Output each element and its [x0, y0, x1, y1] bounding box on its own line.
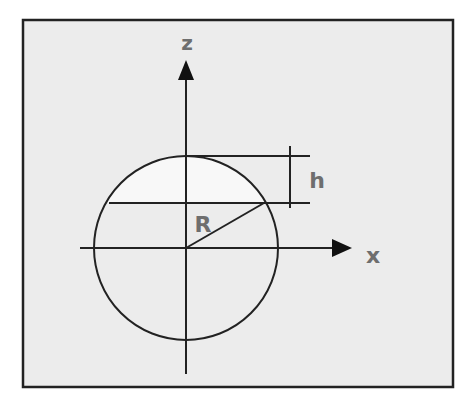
z-axis-label: z — [181, 33, 193, 53]
radius-label: R — [195, 214, 212, 236]
spherical-cap-diagram: z x h R — [0, 0, 468, 404]
x-axis-label: x — [366, 245, 380, 267]
height-label: h — [309, 170, 325, 192]
diagram-canvas — [0, 0, 468, 404]
